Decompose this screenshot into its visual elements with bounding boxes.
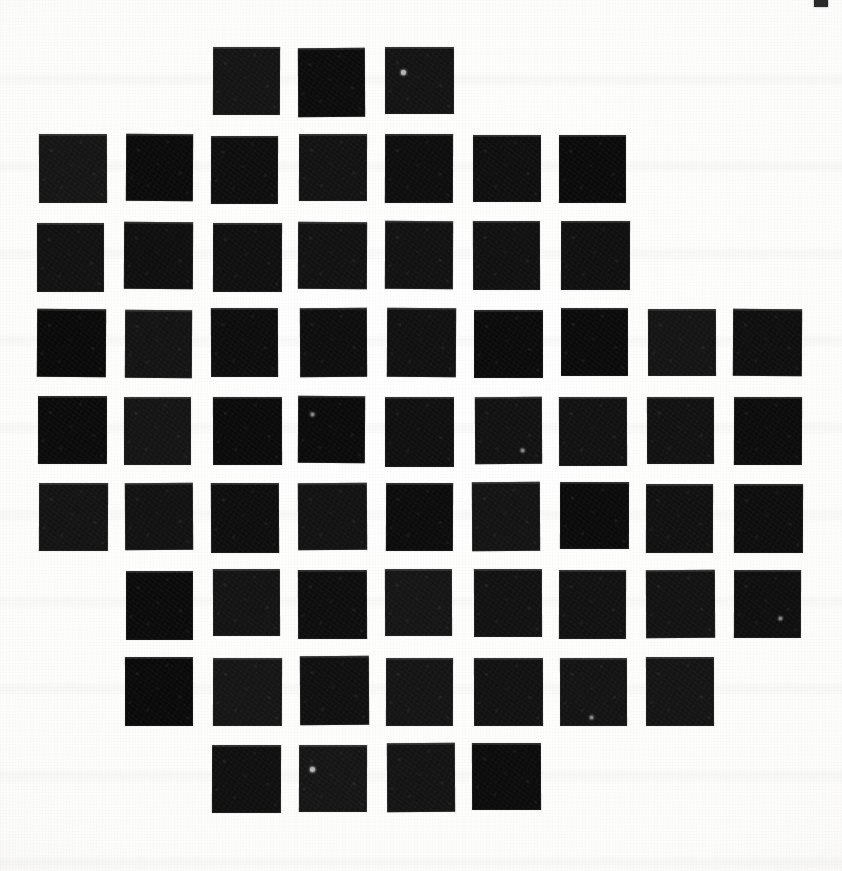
lattice-square bbox=[385, 483, 452, 552]
lattice-square bbox=[474, 658, 543, 726]
lattice-square bbox=[559, 397, 627, 466]
lattice-square bbox=[734, 397, 802, 465]
lattice-square bbox=[39, 134, 107, 204]
lattice-square bbox=[472, 743, 541, 810]
scanned-page bbox=[0, 0, 842, 871]
lattice-square bbox=[298, 745, 366, 812]
lattice-square bbox=[125, 483, 193, 551]
lattice-square bbox=[299, 134, 367, 201]
speck-r4c5 bbox=[521, 449, 524, 452]
lattice-square bbox=[125, 657, 193, 726]
lattice-square bbox=[734, 570, 802, 638]
lattice-square bbox=[126, 571, 193, 640]
lattice-square bbox=[473, 135, 541, 202]
speck-r4c3 bbox=[311, 412, 314, 415]
lattice-square bbox=[734, 484, 803, 553]
lattice-square bbox=[126, 134, 193, 201]
lattice-square bbox=[297, 395, 364, 462]
lattice-square bbox=[213, 397, 282, 466]
lattice-square bbox=[473, 221, 540, 290]
lattice-square bbox=[474, 569, 542, 637]
lattice-square bbox=[385, 134, 454, 203]
lattice-square bbox=[211, 308, 279, 377]
lattice-square bbox=[385, 569, 452, 636]
lattice-square bbox=[211, 136, 278, 204]
lattice-square bbox=[124, 222, 193, 289]
lattice-square bbox=[474, 397, 541, 464]
lattice-square bbox=[213, 569, 280, 636]
lattice-square bbox=[212, 47, 279, 115]
lattice-square bbox=[386, 658, 453, 726]
lattice-square bbox=[36, 223, 103, 292]
lattice-square bbox=[648, 309, 716, 376]
lattice-square bbox=[560, 482, 629, 549]
speck-r7c6 bbox=[590, 716, 593, 719]
lattice-square bbox=[213, 658, 282, 726]
lattice-square bbox=[385, 221, 453, 290]
lattice-square bbox=[211, 483, 279, 553]
lattice-square bbox=[559, 570, 626, 639]
lattice-square bbox=[561, 307, 628, 375]
lattice-square bbox=[646, 570, 715, 638]
lattice-square bbox=[125, 309, 192, 377]
lattice-square bbox=[298, 570, 368, 640]
lattice-square bbox=[647, 397, 714, 464]
lattice-square bbox=[36, 308, 106, 376]
square-lattice bbox=[0, 0, 842, 871]
lattice-square bbox=[39, 483, 108, 552]
lattice-square bbox=[733, 309, 802, 376]
speck-r8c3 bbox=[310, 767, 315, 772]
lattice-square bbox=[645, 484, 712, 553]
lattice-square bbox=[387, 308, 457, 378]
lattice-square bbox=[387, 743, 455, 812]
lattice-square bbox=[299, 308, 366, 377]
speck-r0c4 bbox=[401, 70, 406, 75]
lattice-square bbox=[38, 396, 107, 464]
lattice-square bbox=[561, 221, 630, 290]
lattice-square bbox=[559, 135, 626, 203]
speck-r6c8 bbox=[779, 617, 782, 620]
lattice-square bbox=[559, 658, 626, 726]
lattice-square bbox=[385, 47, 454, 114]
lattice-square bbox=[646, 657, 714, 726]
lattice-square bbox=[297, 221, 366, 289]
lattice-square bbox=[124, 397, 191, 465]
scanner-edge-mark-icon bbox=[814, 0, 828, 7]
lattice-square bbox=[298, 48, 365, 117]
lattice-square bbox=[474, 310, 543, 378]
lattice-square bbox=[298, 483, 367, 551]
lattice-square bbox=[384, 397, 453, 467]
lattice-square bbox=[300, 655, 369, 724]
lattice-square bbox=[472, 482, 540, 552]
lattice-square bbox=[213, 223, 282, 292]
lattice-square bbox=[212, 745, 281, 814]
